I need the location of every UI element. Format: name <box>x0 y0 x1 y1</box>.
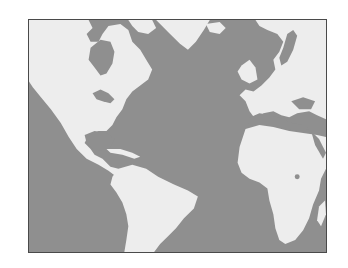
map-title: Atlantic Ocean region world map <box>0 0 1 1</box>
map-frame <box>28 19 327 253</box>
world-map <box>29 20 326 252</box>
lake-victoria <box>295 174 300 179</box>
